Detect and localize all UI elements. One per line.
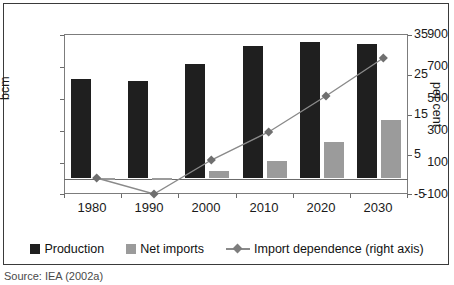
right-tickmark-neg5 xyxy=(408,194,412,195)
x-tickmark-5 xyxy=(350,194,351,198)
x-label-2020: 2020 xyxy=(293,200,349,215)
right-tickmark-5 xyxy=(408,155,412,156)
right-tickmark-35 xyxy=(408,35,412,36)
left-axis-title: bcm xyxy=(0,76,12,100)
bar-production-1990 xyxy=(128,81,148,178)
x-tickmark-0 xyxy=(64,194,65,198)
left-tickmark-500 xyxy=(60,99,64,100)
zero-baseline xyxy=(64,179,408,180)
left-tickmark-100 xyxy=(60,163,64,164)
x-label-2010: 2010 xyxy=(236,200,292,215)
legend-line-diamond-icon xyxy=(226,244,250,254)
left-tickmark-300 xyxy=(60,131,64,132)
bar-net-imports-2020 xyxy=(324,142,344,178)
bar-net-imports-2000 xyxy=(209,171,229,178)
x-tickmark-6 xyxy=(407,194,408,198)
bar-net-imports-2030 xyxy=(381,120,401,178)
legend-swatch-net-imports-icon xyxy=(126,244,136,254)
legend-item-import-dependence[interactable]: Import dependence (right axis) xyxy=(226,242,424,256)
right-tick-neg5: -5 xyxy=(414,187,454,201)
chart-frame: bcm 900 700 500 300 100 -100 per cent 35… xyxy=(3,3,449,265)
bar-production-2020 xyxy=(300,42,320,178)
left-tickmark-700 xyxy=(60,67,64,68)
bar-net-imports-2010 xyxy=(267,161,287,178)
right-tick-15: 15 xyxy=(414,107,454,121)
bar-production-1980 xyxy=(71,79,91,178)
bar-net-imports-1990 xyxy=(152,178,172,180)
legend-label-net-imports: Net imports xyxy=(140,242,204,256)
right-tick-25: 25 xyxy=(414,67,454,81)
x-label-1980: 1980 xyxy=(64,200,120,215)
legend-item-net-imports[interactable]: Net imports xyxy=(126,242,204,256)
bar-production-2000 xyxy=(185,64,205,178)
right-tickmark-15 xyxy=(408,115,412,116)
right-tickmark-25 xyxy=(408,75,412,76)
source-caption: Source: IEA (2002a) xyxy=(4,270,103,282)
bar-production-2010 xyxy=(243,46,263,178)
x-tickmark-4 xyxy=(293,194,294,198)
x-tickmark-1 xyxy=(121,194,122,198)
chart-legend: Production Net imports Import dependence… xyxy=(4,242,450,256)
x-tickmark-3 xyxy=(236,194,237,198)
bar-net-imports-1980 xyxy=(95,178,115,180)
left-tickmark-900 xyxy=(60,35,64,36)
legend-swatch-production-icon xyxy=(30,244,40,254)
chart-figure: bcm 900 700 500 300 100 -100 per cent 35… xyxy=(0,0,454,285)
legend-item-production[interactable]: Production xyxy=(30,242,104,256)
legend-label-production: Production xyxy=(44,242,104,256)
x-label-1990: 1990 xyxy=(121,200,177,215)
bar-production-2030 xyxy=(357,44,377,178)
x-label-2030: 2030 xyxy=(350,200,406,215)
right-tick-35: 35 xyxy=(414,27,454,41)
x-label-2000: 2000 xyxy=(178,200,234,215)
legend-label-import-dependence: Import dependence (right axis) xyxy=(254,242,424,256)
x-tickmark-2 xyxy=(178,194,179,198)
right-tick-5: 5 xyxy=(414,147,454,161)
